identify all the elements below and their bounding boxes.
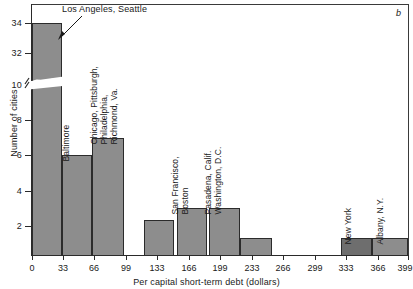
callout-arrow-icon [52,14,86,40]
annotation-baltimore: Baltimore [62,125,72,162]
y-tick-6 [25,155,32,156]
x-tick-299 [315,255,316,260]
y-tick-32 [25,53,32,54]
y-tick-2 [25,226,32,227]
x-tick-label-99: 99 [121,263,131,273]
x-tick-99 [126,255,127,260]
y-tick-4 [25,191,32,192]
x-tick-label-233: 233 [244,263,259,273]
y-axis-title: Number of cities [9,68,19,178]
x-tick-166 [189,255,190,260]
bar-199-233 [240,238,272,256]
x-tick-label-366: 366 [370,263,385,273]
x-tick-label-0: 0 [29,263,34,273]
x-tick-label-66: 66 [89,263,99,273]
x-tick-333 [346,255,347,260]
y-tick-10 [25,85,32,86]
x-tick-399 [408,255,409,260]
x-tick-366 [378,255,379,260]
x-tick-label-33: 33 [58,263,68,273]
x-tick-label-266: 266 [275,263,290,273]
bar-0-33 [32,23,62,256]
bar-33-66 [62,155,92,256]
x-axis-title: Per capital short-term debt (dollars) [0,277,413,287]
bar-99-133 [144,220,174,256]
annotation-new-york: New York [344,208,354,245]
x-tick-233 [252,255,253,260]
panel-letter: b [396,8,401,18]
x-tick-label-133: 133 [149,263,164,273]
x-tick-label-333: 333 [338,263,353,273]
x-tick-label-399: 399 [397,263,412,273]
annotation-sanfrancisco-l2: Boston [181,187,191,214]
y-tick-label-34: 34 [12,19,22,28]
bar-chart-figure: 2 4 6 8 10 32 34 0 33 66 99 133 166 199 … [0,0,413,289]
x-tick-label-199: 199 [212,263,227,273]
y-tick-label-4: 4 [17,187,22,196]
annotation-pasadena-l2: Washington, D.C. [214,147,224,215]
bar-133-166 [177,208,207,256]
x-tick-label-166: 166 [181,263,196,273]
bar-166-199 [209,208,240,256]
y-tick-label-2: 2 [17,222,22,231]
annotation-los-angeles-seattle: Los Angeles, Seattle [62,4,147,14]
x-tick-label-299: 299 [307,263,322,273]
x-tick-66 [94,255,95,260]
y-tick-8 [25,120,32,121]
bar-66-99 [92,138,124,256]
x-tick-33 [63,255,64,260]
y-tick-label-32: 32 [12,49,22,58]
x-tick-133 [157,255,158,260]
annotation-albany: Albany, N.Y. [376,198,386,245]
annotation-chicago-l3: Richmond, Va. [110,88,120,144]
x-tick-199 [220,255,221,260]
y-tick-34 [25,23,32,24]
x-tick-266 [283,255,284,260]
x-tick-0 [32,255,33,260]
